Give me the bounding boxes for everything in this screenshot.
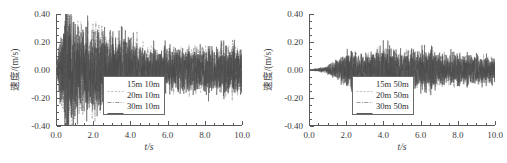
y-tick-minor <box>57 42 59 43</box>
x-tick-minor <box>121 123 122 125</box>
x-tick-major <box>130 121 131 125</box>
y-tick-minor <box>310 42 312 43</box>
x-tick-minor <box>233 123 234 125</box>
y-axis-title-left: 速度/(m/s) <box>7 49 21 92</box>
x-tick-minor <box>75 123 76 125</box>
legend-line-sample-icon <box>107 81 124 88</box>
legend-row: 20m 50m <box>356 90 409 101</box>
y-tick-minor <box>310 105 312 106</box>
y-tick-minor <box>310 14 312 15</box>
x-tick-minor <box>328 123 329 125</box>
x-tick-major <box>495 121 496 125</box>
y-tick-label: 0.20 <box>34 37 50 47</box>
y-tick-label: 0.00 <box>34 65 50 75</box>
x-tick-minor <box>214 123 215 125</box>
x-tick-label: 4.0 <box>378 130 389 140</box>
legend-row: 30m 10m <box>107 101 160 112</box>
y-tick-minor <box>57 56 59 57</box>
x-tick-minor <box>365 123 366 125</box>
y-tick-label: -0.20 <box>284 93 303 103</box>
x-tick-minor <box>158 123 159 125</box>
legend-line-sample-icon <box>107 92 124 99</box>
y-tick-minor <box>310 119 312 120</box>
x-tick-label: 6.0 <box>415 130 426 140</box>
y-tick-minor <box>57 112 59 113</box>
legend-line-sample-icon <box>107 103 124 110</box>
y-tick-minor <box>57 84 59 85</box>
chart-panel-right: 速度/(m/s) t/s 0.400.200.00-0.20-0.400.02.… <box>253 0 506 163</box>
x-tick-minor <box>65 123 66 125</box>
x-axis-title-text-right: t/s <box>398 142 407 152</box>
legend-row: 15m 10m <box>107 79 160 90</box>
y-tick-label: 0.20 <box>287 37 303 47</box>
x-tick-label: 6.0 <box>162 130 173 140</box>
x-axis-title-left: t/s <box>145 142 154 152</box>
y-tick-minor <box>310 84 312 85</box>
x-tick-major <box>205 121 206 125</box>
y-tick-minor <box>57 91 59 92</box>
y-tick-minor <box>310 35 312 36</box>
x-tick-major <box>383 121 384 125</box>
y-tick-minor <box>310 28 312 29</box>
x-tick-minor <box>467 123 468 125</box>
y-tick-major <box>57 70 61 71</box>
x-tick-minor <box>149 123 150 125</box>
legend-row: 15m 50m <box>356 79 409 90</box>
y-tick-label: 0.00 <box>287 65 303 75</box>
legend-label: 30m 10m <box>127 101 160 112</box>
x-tick-major <box>309 121 310 125</box>
x-tick-minor <box>177 123 178 125</box>
velocity-time-history-figure: 速度/(m/s) t/s 0.400.200.00-0.20-0.400.02.… <box>0 0 507 163</box>
y-tick-minor <box>57 119 59 120</box>
y-tick-minor <box>57 35 59 36</box>
x-tick-label: 0.0 <box>303 130 314 140</box>
y-tick-major <box>310 126 314 127</box>
y-axis-title-right: 速度/(m/s) <box>260 49 274 92</box>
y-tick-minor <box>57 49 59 50</box>
x-tick-minor <box>318 123 319 125</box>
x-tick-major <box>421 121 422 125</box>
x-tick-minor <box>186 123 187 125</box>
y-tick-minor <box>310 112 312 113</box>
y-tick-major <box>57 126 61 127</box>
x-tick-minor <box>449 123 450 125</box>
x-tick-label: 8.0 <box>199 130 210 140</box>
x-tick-major <box>93 121 94 125</box>
y-tick-minor <box>57 105 59 106</box>
legend-row: 30m 50m <box>356 101 409 112</box>
x-tick-label: 8.0 <box>452 130 463 140</box>
x-tick-minor <box>402 123 403 125</box>
legend-label: 20m 10m <box>127 90 160 101</box>
legend-line-sample-icon <box>356 103 373 110</box>
x-tick-minor <box>196 123 197 125</box>
x-tick-minor <box>411 123 412 125</box>
y-tick-major <box>310 98 314 99</box>
x-tick-minor <box>439 123 440 125</box>
x-tick-major <box>168 121 169 125</box>
chart-panel-left: 速度/(m/s) t/s 0.400.200.00-0.20-0.400.02.… <box>0 0 253 163</box>
y-tick-minor <box>57 63 59 64</box>
x-tick-label: 2.0 <box>341 130 352 140</box>
y-tick-minor <box>57 14 59 15</box>
legend-line-sample-icon <box>356 81 373 88</box>
x-tick-label: 0.0 <box>50 130 61 140</box>
y-tick-major <box>310 70 314 71</box>
y-tick-minor <box>57 28 59 29</box>
x-tick-label: 10.0 <box>487 130 503 140</box>
y-tick-minor <box>310 63 312 64</box>
legend-label: 30m 50m <box>376 101 409 112</box>
legend-label: 15m 10m <box>127 79 160 90</box>
x-tick-minor <box>84 123 85 125</box>
x-tick-label: 10.0 <box>234 130 250 140</box>
y-tick-major <box>57 98 61 99</box>
y-tick-minor <box>310 77 312 78</box>
x-tick-minor <box>486 123 487 125</box>
legend-label: 15m 50m <box>376 79 409 90</box>
x-tick-major <box>458 121 459 125</box>
x-tick-minor <box>356 123 357 125</box>
x-tick-minor <box>337 123 338 125</box>
x-tick-minor <box>223 123 224 125</box>
y-tick-minor <box>57 21 59 22</box>
x-tick-minor <box>393 123 394 125</box>
x-tick-label: 4.0 <box>125 130 136 140</box>
